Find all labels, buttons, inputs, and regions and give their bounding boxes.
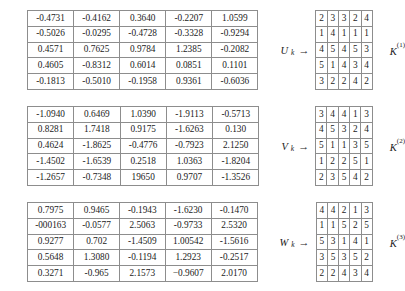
matrix-cell: 5 <box>350 154 361 170</box>
target-superscript: (3) <box>397 233 405 241</box>
matrix-cell: 3 <box>350 266 361 282</box>
table-row: 5 1 1 3 5 <box>316 138 373 154</box>
matrix-cell: 2 <box>327 154 338 170</box>
matrix-cell: 0.1101 <box>212 58 258 74</box>
source-label-3: Wk → <box>280 236 310 248</box>
matrix-cell: 0.130 <box>213 122 259 138</box>
matrix-cell: -0.1958 <box>120 74 166 90</box>
matrix-cell: 3 <box>350 138 361 154</box>
matrix-cell: 4 <box>338 58 349 74</box>
matrix-cell: -1.6263 <box>166 122 212 138</box>
matrix-cell: 4 <box>350 170 361 186</box>
matrix-cell: -1.5616 <box>211 234 257 250</box>
matrix-cell: -0.4728 <box>120 26 166 42</box>
matrix-cell: 3 <box>361 42 372 58</box>
matrix-cell: -0.1943 <box>119 203 165 219</box>
matrix-cell: -0.9733 <box>165 218 211 234</box>
matrix-cell: 2 <box>350 218 361 234</box>
table-row: 3 2 2 4 2 <box>316 74 372 90</box>
matrix-cell: 2.1250 <box>213 138 259 154</box>
matrix-cell: 4 <box>316 122 327 138</box>
matrix-cell: 2 <box>316 170 327 186</box>
matrix-cell: -1.0940 <box>28 107 74 123</box>
int-matrix-1: 2 3 3 2 4 1 4 1 1 1 4 5 4 5 <box>315 10 372 90</box>
matrix-cell: 1 <box>339 234 350 250</box>
int-matrix-2: 3 4 4 1 3 4 5 3 2 4 5 1 1 3 <box>315 106 373 186</box>
matrix-cell: 3 <box>361 107 372 123</box>
matrix-cell: 1 <box>361 234 372 250</box>
target-superscript: (2) <box>397 137 405 145</box>
matrix-cell: 1.0390 <box>120 107 166 123</box>
matrix-cell: 1 <box>316 26 327 42</box>
int-matrix-3: 4 4 2 1 3 1 1 5 2 5 5 3 1 4 <box>316 202 373 282</box>
matrix-cell: 1 <box>350 26 361 42</box>
table-row: 2 3 3 2 4 <box>316 11 372 27</box>
table-row: 1 1 5 2 5 <box>316 218 372 234</box>
matrix-cell: -0.2207 <box>166 11 212 27</box>
matrix-cell: -1.4509 <box>119 234 165 250</box>
table-row: -0.5026 -0.0295 -0.4728 -0.3328 -0.9294 <box>28 26 258 42</box>
matrix-cell: 0.9465 <box>74 203 120 219</box>
matrix-cell: 19650 <box>120 170 166 186</box>
matrix-cell: 0.4624 <box>28 138 74 154</box>
matrix-cell: -0.0295 <box>74 26 120 42</box>
matrix-cell: 3 <box>338 11 349 27</box>
source-symbol: V <box>281 141 287 152</box>
matrix-cell: 2 <box>361 74 372 90</box>
matrix-cell: -0.5713 <box>213 107 259 123</box>
matrix-cell: 2 <box>350 122 361 138</box>
matrix-cell: 1.2923 <box>165 250 211 266</box>
matrix-cell: 2 <box>316 11 327 27</box>
table-row: 1 4 1 1 1 <box>316 26 372 42</box>
matrix-cell: 4 <box>327 107 338 123</box>
matrix-cell: 2.0170 <box>211 266 257 282</box>
target-symbol: K <box>390 45 397 56</box>
matrix-cell: 1.00542 <box>165 234 211 250</box>
matrix-cell: 0.7975 <box>28 203 74 219</box>
matrix-cell: 4 <box>327 26 338 42</box>
matrix-cell: -0.5026 <box>28 26 74 42</box>
matrix-cell: 1 <box>338 26 349 42</box>
source-label-2: Vk → <box>281 140 309 152</box>
table-row: 3 4 4 1 3 <box>316 107 373 123</box>
matrix-cell: -1.4502 <box>28 154 74 170</box>
matrix-cell: 3 <box>339 250 350 266</box>
matrix-cell: -0.4731 <box>28 11 74 27</box>
matrix-cell: 1 <box>361 154 372 170</box>
matrix-cell: -0.4162 <box>74 11 120 27</box>
matrix-cell: 4 <box>361 122 372 138</box>
table-row: 4 5 3 2 4 <box>316 122 373 138</box>
matrix-cell: 3 <box>350 58 361 74</box>
matrix-cell: 4 <box>316 42 327 58</box>
matrix-cell: 2 <box>327 266 338 282</box>
matrix-block-2: -1.0940 0.6469 1.0390 -1.9113 -0.5713 0.… <box>0 98 405 194</box>
target-symbol: K <box>390 237 397 248</box>
table-row: -0.4731 -0.4162 0.3640 -0.2207 1.0599 <box>28 11 258 27</box>
matrix-cell: 0.8281 <box>28 122 74 138</box>
matrix-cell: 0.3271 <box>28 266 74 282</box>
matrix-cell: 4 <box>327 203 338 219</box>
table-row: 3 5 3 5 2 <box>316 250 372 266</box>
matrix-cell: -0.7348 <box>74 170 120 186</box>
table-row: -000163 -0.0577 2.5063 -0.9733 2.5320 <box>28 218 258 234</box>
float-matrix-2: -1.0940 0.6469 1.0390 -1.9113 -0.5713 0.… <box>27 106 259 186</box>
source-subscript: k <box>291 48 294 57</box>
matrix-cell: 3 <box>327 11 338 27</box>
table-row: 0.4624 -1.8625 -0.4776 -0.7923 2.1250 <box>28 138 259 154</box>
source-subscript: k <box>291 240 294 249</box>
matrix-cell: 4 <box>316 203 327 219</box>
source-subscript: k <box>291 144 294 153</box>
matrix-cell: 0.9277 <box>28 234 74 250</box>
matrix-cell: 4 <box>339 266 350 282</box>
matrix-cell: 4 <box>350 234 361 250</box>
matrix-cell: 5 <box>316 58 327 74</box>
matrix-cell: 1.0599 <box>212 11 258 27</box>
matrix-cell: -1.6230 <box>165 203 211 219</box>
matrix-cell: 0.7625 <box>74 42 120 58</box>
matrix-cell: 1 <box>350 107 361 123</box>
matrix-cell: 3 <box>327 234 338 250</box>
float-matrix-3: 0.7975 0.9465 -0.1943 -1.6230 -0.1470 -0… <box>27 202 258 282</box>
table-row: -1.2657 -0.7348 19650 0.9707 -1.3526 <box>28 170 259 186</box>
matrix-cell: 0.702 <box>74 234 120 250</box>
matrix-cell: 5 <box>350 250 361 266</box>
